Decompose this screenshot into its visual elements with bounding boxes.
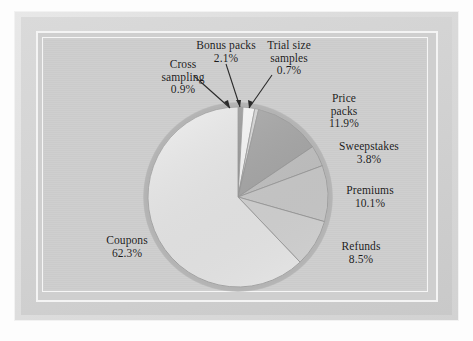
pie-slice-group: Cross sampling 0.9%Bonus packs 2.1%Trial… <box>148 107 328 287</box>
label-premiums-value: 10.1% <box>328 197 412 210</box>
label-cross-sampling-line2: sampling <box>152 71 214 84</box>
label-cross-sampling-value: 0.9% <box>152 83 214 96</box>
label-bonus-packs: Bonus packs 2.1% <box>190 39 262 64</box>
label-price-packs-line2: packs <box>316 105 372 118</box>
label-trial-size-samples: Trial size samples 0.7% <box>256 39 322 77</box>
label-price-packs: Price packs 11.9% <box>316 92 372 130</box>
label-bonus-packs-value: 2.1% <box>190 52 262 65</box>
label-refunds: Refunds 8.5% <box>327 240 395 265</box>
label-premiums-line1: Premiums <box>328 184 412 197</box>
label-trial-size-line1: Trial size <box>256 39 322 52</box>
label-price-packs-value: 11.9% <box>316 117 372 130</box>
label-refunds-value: 8.5% <box>327 253 395 266</box>
label-premiums: Premiums 10.1% <box>328 184 412 209</box>
label-bonus-packs-line1: Bonus packs <box>190 39 262 52</box>
label-sweepstakes: Sweepstakes 3.8% <box>322 140 416 165</box>
label-trial-size-line2: samples <box>256 52 322 65</box>
label-refunds-line1: Refunds <box>327 240 395 253</box>
label-coupons-line1: Coupons <box>93 234 161 247</box>
leader-line-trial-size <box>249 75 272 108</box>
figure-root: Cross sampling 0.9%Bonus packs 2.1%Trial… <box>0 0 473 341</box>
label-trial-size-value: 0.7% <box>256 64 322 77</box>
label-sweepstakes-line1: Sweepstakes <box>322 140 416 153</box>
label-price-packs-line1: Price <box>316 92 372 105</box>
label-coupons: Coupons 62.3% <box>93 234 161 259</box>
label-sweepstakes-value: 3.8% <box>322 153 416 166</box>
label-coupons-value: 62.3% <box>93 247 161 260</box>
